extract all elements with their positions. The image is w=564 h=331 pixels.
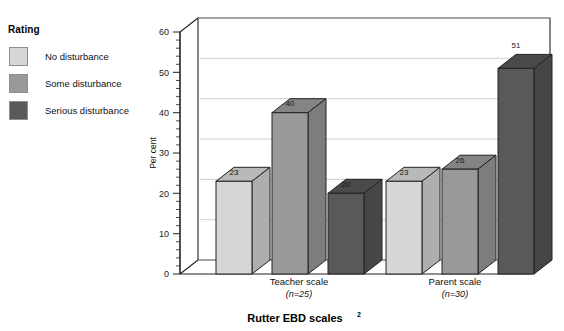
y-tick-50: 50 xyxy=(159,68,169,78)
y-axis xyxy=(173,32,180,274)
bar-teacher-some-disturbance xyxy=(272,99,326,274)
y-tick-20: 20 xyxy=(159,189,169,199)
value-label-parent-no-disturbance: 23 xyxy=(400,168,409,177)
bar-teacher-serious-disturbance xyxy=(328,179,382,274)
category-label-teacher-scale: Teacher scale xyxy=(270,276,329,287)
y-tick-60: 60 xyxy=(159,27,169,37)
category-label-parent-scale: Parent scale xyxy=(429,276,482,287)
value-label-teacher-no-disturbance: 23 xyxy=(230,168,239,177)
y-tick-10: 10 xyxy=(159,229,169,239)
x-axis-title: Rutter EBD scales xyxy=(247,312,342,324)
category-note-teacher-scale: (n=25) xyxy=(286,289,312,299)
category-note-parent-scale: (n=30) xyxy=(442,289,468,299)
x-axis-title-superscript: 2 xyxy=(357,311,361,318)
y-axis-title: Per cent xyxy=(148,137,158,169)
y-tick-30: 30 xyxy=(159,148,169,158)
y-tick-labels: 0 10 20 30 40 50 60 xyxy=(159,27,169,279)
x-axis-title-group: Rutter EBD scales 2 xyxy=(247,311,361,324)
y-tick-0: 0 xyxy=(164,269,169,279)
bar-teacher-no-disturbance xyxy=(216,167,270,274)
bar-parent-some-disturbance xyxy=(442,155,496,274)
bar-parent-serious-disturbance xyxy=(498,54,552,274)
y-tick-40: 40 xyxy=(159,108,169,118)
x-category-labels: Teacher scale (n=25) Parent scale (n=30) xyxy=(270,276,482,299)
value-label-teacher-some-disturbance: 40 xyxy=(286,99,295,108)
bar-chart: 0 10 20 30 40 50 60 Per cent 23 40 xyxy=(0,0,564,331)
value-label-parent-some-disturbance: 26 xyxy=(456,156,465,165)
value-label-parent-serious-disturbance: 51 xyxy=(512,41,521,50)
value-label-teacher-serious-disturbance: 20 xyxy=(342,180,351,189)
bar-parent-no-disturbance xyxy=(386,167,440,274)
